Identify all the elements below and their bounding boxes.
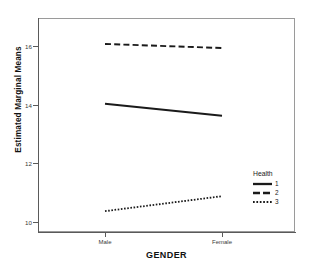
legend-key-dotted-icon: [252, 198, 273, 206]
legend-item-1[interactable]: 1: [252, 180, 308, 188]
legend-label-3: 3: [275, 198, 279, 205]
legend-label-2: 2: [275, 189, 279, 196]
legend-key-dashed-icon: [252, 189, 273, 197]
legend-title: Health: [252, 170, 308, 177]
series-line-health-1: [105, 104, 222, 116]
legend-label-1: 1: [275, 180, 279, 187]
profile-plot: 16 14 12 10 Male Female Estimated Margin…: [0, 0, 314, 269]
series-layer: [0, 0, 314, 269]
legend-item-3[interactable]: 3: [252, 198, 308, 206]
legend-item-2[interactable]: 2: [252, 189, 308, 197]
series-line-health-3: [105, 196, 222, 211]
series-line-health-2: [105, 44, 222, 48]
legend-key-solid-icon: [252, 180, 273, 188]
legend: Health 1 2 3: [252, 170, 308, 207]
